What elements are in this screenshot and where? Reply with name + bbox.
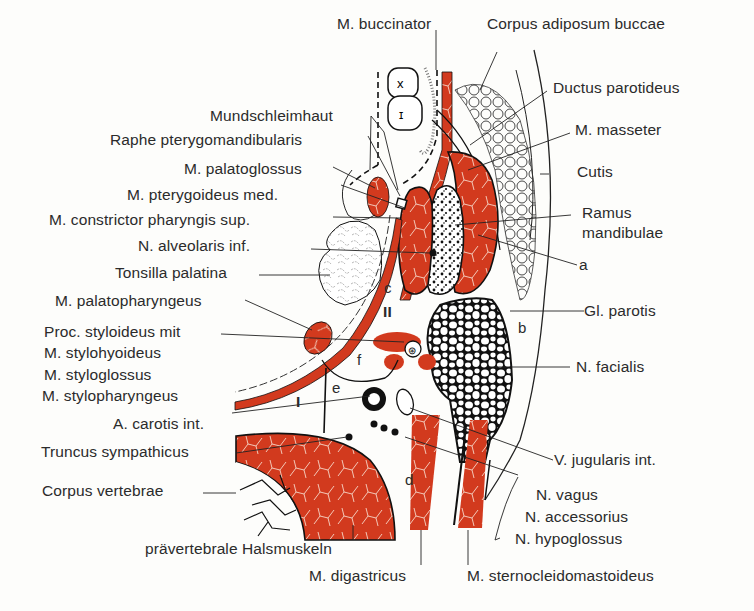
svg-text:x: x xyxy=(397,76,404,91)
letter-e: e xyxy=(332,379,340,397)
label-styloglossus: M. styloglossus xyxy=(44,366,151,384)
letter-b: b xyxy=(518,319,526,337)
label-digastricus: M. digastricus xyxy=(309,567,406,585)
label-sympathicus: Truncus sympathicus xyxy=(41,443,189,461)
label-ductus-parotideus: Ductus parotideus xyxy=(553,79,680,97)
label-facialis: N. facialis xyxy=(576,358,644,376)
svg-text:ɪ: ɪ xyxy=(399,108,403,122)
space-II: II xyxy=(383,303,392,321)
anatomy-figure: x ɪ xyxy=(0,0,754,611)
label-stylopharyngeus: M. stylopharyngeus xyxy=(42,387,178,405)
label-accessorius: N. accessorius xyxy=(525,508,628,526)
label-buccinator: M. buccinator xyxy=(337,15,431,33)
label-constrictor: M. constrictor pharyngis sup. xyxy=(49,211,250,229)
label-parotis: Gl. parotis xyxy=(584,302,656,320)
teeth: x ɪ xyxy=(388,68,435,153)
raphe-square xyxy=(396,198,407,209)
alveolar-nerve-dot xyxy=(430,250,437,257)
digastricus-muscle xyxy=(410,415,440,530)
label-proc-styloideus: Proc. styloideus mit xyxy=(44,323,180,341)
tonsilla-palatina xyxy=(319,221,382,305)
label-raphe: Raphe pterygomandibularis xyxy=(110,131,302,149)
svg-text:⊛: ⊛ xyxy=(408,345,416,356)
letter-f: f xyxy=(357,351,361,369)
label-corpus-adiposum: Corpus adiposum buccae xyxy=(487,15,665,33)
label-palatoglossus: M. palatoglossus xyxy=(184,160,302,178)
label-tonsilla: Tonsilla palatina xyxy=(115,264,227,282)
label-sternocleidomastoideus: M. sternocleidomastoideus xyxy=(467,567,654,585)
label-vertebrae: Corpus vertebrae xyxy=(42,482,163,500)
letter-c: c xyxy=(384,279,392,297)
label-palatopharyngeus: M. palatopharyngeus xyxy=(55,292,202,310)
label-a: a xyxy=(579,256,588,274)
label-pterygoideus: M. pterygoideus med. xyxy=(127,186,278,204)
letter-d: d xyxy=(405,471,413,489)
nerve-dots xyxy=(346,421,399,441)
label-masseter: M. masseter xyxy=(575,121,661,139)
label-cutis: Cutis xyxy=(577,163,613,181)
label-hypoglossus: N. hypoglossus xyxy=(515,530,622,548)
space-I: I xyxy=(296,393,300,411)
label-vagus: N. vagus xyxy=(536,486,598,504)
label-mandibulae: mandibulae xyxy=(582,224,663,242)
label-alveolaris: N. alveolaris inf. xyxy=(138,237,250,255)
label-carotis: A. carotis int. xyxy=(113,415,204,433)
carotis-interna xyxy=(365,390,383,408)
label-jugularis: V. jugularis int. xyxy=(554,451,656,469)
palatoglossus-muscle xyxy=(367,177,389,217)
vena-jugularis xyxy=(394,387,416,416)
label-halsmuskeln: prävertebrale Halsmuskeln xyxy=(145,540,332,558)
label-ramus: Ramus xyxy=(582,204,632,222)
label-stylohyoideus: M. stylohyoideus xyxy=(44,344,161,362)
label-mundschleimhaut: Mundschleimhaut xyxy=(210,107,333,125)
